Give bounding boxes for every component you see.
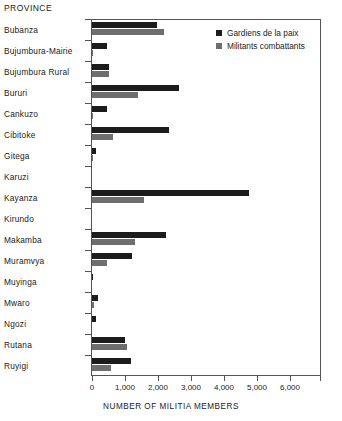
legend-swatch-icon	[216, 43, 222, 49]
bar-gardiens	[92, 337, 125, 343]
bar-militants	[92, 113, 93, 119]
chart-row: Ruyigi	[0, 355, 342, 376]
legend-item: Gardiens de la paix	[216, 28, 305, 38]
chart-row: Mwaro	[0, 292, 342, 313]
bar-gardiens	[92, 148, 96, 154]
chart-row: Cibitoke	[0, 124, 342, 145]
x-axis-tick	[158, 376, 159, 381]
category-label: Cankuzo	[4, 109, 38, 119]
chart-row: Cankuzo	[0, 103, 342, 124]
bar-militants	[92, 71, 109, 77]
bar-militants	[92, 260, 107, 266]
chart-row: Makamba	[0, 229, 342, 250]
bar-militants	[92, 197, 144, 203]
bar-militants	[92, 239, 135, 245]
y-axis-title: PROVINCE	[4, 3, 52, 13]
category-label: Ngozi	[4, 319, 26, 329]
x-axis-tick-label: 0	[90, 383, 94, 392]
bar-gardiens	[92, 85, 179, 91]
category-label: Rutana	[4, 340, 32, 350]
bar-gardiens	[92, 253, 132, 259]
chart-row: Gitega	[0, 145, 342, 166]
category-label: Cibitoke	[4, 130, 36, 140]
y-axis-tick	[85, 292, 91, 293]
chart-row: Karuzi	[0, 166, 342, 187]
bar-militants	[92, 134, 113, 140]
bar-militants	[92, 344, 127, 350]
y-axis-tick	[85, 208, 91, 209]
chart-row: Muramvya	[0, 250, 342, 271]
category-label: Gitega	[4, 151, 30, 161]
y-axis-tick	[85, 250, 91, 251]
x-axis-title: NUMBER OF MILITIA MEMBERS	[0, 402, 342, 411]
bar-gardiens	[92, 22, 157, 28]
bar-gardiens	[92, 316, 96, 322]
category-label: Bubanza	[4, 25, 38, 35]
chart-row: Rutana	[0, 334, 342, 355]
militia-members-bar-chart: PROVINCE BubanzaBujumbura-MairieBujumbur…	[0, 0, 342, 421]
bar-militants	[92, 92, 138, 98]
category-label: Makamba	[4, 235, 42, 245]
y-axis-tick	[85, 82, 91, 83]
bar-gardiens	[92, 274, 93, 280]
bar-gardiens	[92, 127, 169, 133]
x-axis-tick-end	[320, 376, 321, 381]
bar-gardiens	[92, 232, 166, 238]
y-axis-tick	[85, 334, 91, 335]
x-axis-tick	[191, 376, 192, 381]
category-label: Mwaro	[4, 298, 30, 308]
category-label: Kayanza	[4, 193, 38, 203]
y-axis-tick	[85, 229, 91, 230]
bar-gardiens	[92, 64, 109, 70]
bar-militants	[92, 365, 111, 371]
x-axis-tick	[125, 376, 126, 381]
category-rows: BubanzaBujumbura-MairieBujumbura RuralBu…	[0, 19, 342, 376]
category-label: Bururi	[4, 88, 27, 98]
bar-militants	[92, 29, 164, 35]
category-label: Muramvya	[4, 256, 44, 266]
bar-militants	[92, 302, 94, 308]
bar-militants	[92, 50, 93, 56]
x-axis-tick-label: 3,000	[181, 383, 201, 392]
x-axis-tick-label: 2,000	[148, 383, 168, 392]
category-label: Kirundo	[4, 214, 34, 224]
x-axis-tick-label: 1,000	[115, 383, 135, 392]
category-label: Karuzi	[4, 172, 29, 182]
x-axis-tick	[224, 376, 225, 381]
x-axis-tick-label: 6,000	[280, 383, 300, 392]
x-axis-tick-labels: 01,0002,0003,0004,0005,0006,000	[0, 383, 342, 397]
legend-label: Militants combattants	[227, 41, 305, 51]
legend-label: Gardiens de la paix	[227, 28, 299, 38]
chart-row: Bujumbura Rural	[0, 61, 342, 82]
chart-row: Bururi	[0, 82, 342, 103]
bar-gardiens	[92, 43, 107, 49]
y-axis-tick	[85, 40, 91, 41]
chart-row: Kayanza	[0, 187, 342, 208]
y-axis-tick	[85, 103, 91, 104]
chart-legend: Gardiens de la paixMilitants combattants	[216, 28, 305, 54]
y-axis-tick	[85, 313, 91, 314]
category-label: Muyinga	[4, 277, 37, 287]
y-axis-tick	[85, 271, 91, 272]
x-axis-tick	[257, 376, 258, 381]
y-axis-tick	[85, 355, 91, 356]
chart-row: Muyinga	[0, 271, 342, 292]
y-axis-tick	[85, 145, 91, 146]
chart-row: Ngozi	[0, 313, 342, 334]
y-axis-tick	[85, 166, 91, 167]
y-axis-tick	[85, 61, 91, 62]
bar-militants	[92, 155, 93, 161]
x-axis-tick-label: 4,000	[214, 383, 234, 392]
y-axis-tick	[85, 187, 91, 188]
category-label: Bujumbura Rural	[4, 67, 69, 77]
y-axis-tick	[85, 124, 91, 125]
x-axis-tick-label: 5,000	[247, 383, 267, 392]
bar-gardiens	[92, 358, 131, 364]
category-label: Bujumbura-Mairie	[4, 46, 73, 56]
bar-gardiens	[92, 106, 107, 112]
legend-item: Militants combattants	[216, 41, 305, 51]
bar-gardiens	[92, 190, 249, 196]
legend-swatch-icon	[216, 30, 222, 36]
x-axis-tick	[290, 376, 291, 381]
y-axis-tick	[85, 19, 91, 20]
